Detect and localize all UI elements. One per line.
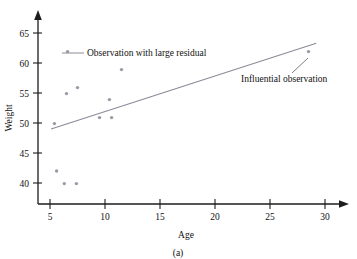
data-point	[75, 182, 78, 185]
influential-observation-label: Influential observation	[241, 74, 328, 84]
y-tick-label-45: 45	[20, 149, 30, 159]
y-axis-arrowhead	[34, 10, 42, 20]
figure-caption: (a)	[173, 248, 184, 259]
data-point-group	[53, 50, 310, 185]
x-tick-label-5: 5	[48, 212, 53, 222]
y-tick-label-55: 55	[20, 89, 30, 99]
y-tick-label-65: 65	[20, 29, 30, 39]
x-axis-arrowhead	[339, 200, 349, 208]
x-tick-label-10: 10	[100, 212, 110, 222]
x-axis-title: Age	[178, 230, 194, 240]
data-point	[120, 68, 123, 71]
y-axis-title: Weight	[4, 104, 14, 132]
axes-group	[34, 10, 349, 208]
influential-observation-connector	[292, 58, 308, 73]
y-tick-label-60: 60	[20, 59, 30, 69]
annotation-influential-observation: Influential observation	[241, 58, 328, 84]
x-tick-label-30: 30	[320, 212, 330, 222]
figure-panel: 65 60 55 50 45 40 5 10 15 20 25 30 Age W…	[0, 0, 357, 259]
data-point	[53, 122, 56, 125]
data-point	[76, 86, 79, 89]
y-tick-label-50: 50	[20, 119, 30, 129]
data-point	[98, 116, 101, 119]
data-point	[110, 116, 113, 119]
data-point	[307, 50, 310, 53]
annotation-large-residual: Observation with large residual	[62, 48, 207, 58]
data-point	[55, 169, 58, 172]
scatter-plot: 65 60 55 50 45 40 5 10 15 20 25 30 Age W…	[0, 0, 357, 259]
large-residual-label: Observation with large residual	[87, 48, 207, 58]
x-tick-label-25: 25	[265, 212, 275, 222]
x-tick-group: 5 10 15 20 25 30	[48, 199, 330, 222]
x-tick-label-20: 20	[210, 212, 220, 222]
data-point	[108, 98, 111, 101]
data-point	[65, 92, 68, 95]
data-point	[63, 182, 66, 185]
x-tick-label-15: 15	[155, 212, 165, 222]
y-tick-label-40: 40	[20, 179, 30, 189]
